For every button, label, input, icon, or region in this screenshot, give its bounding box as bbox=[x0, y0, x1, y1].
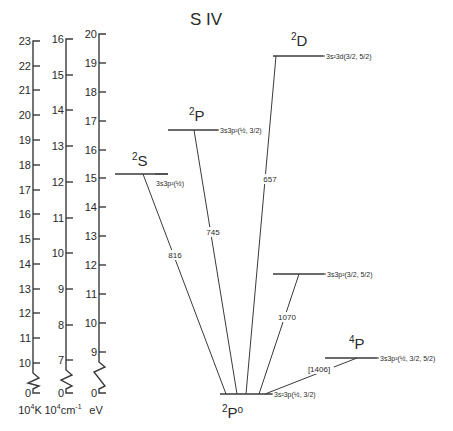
tick-label: 19 bbox=[85, 57, 97, 69]
tick-label: 18 bbox=[19, 159, 31, 171]
axis-electronvolt: 201918171615141312111090eV bbox=[85, 28, 106, 416]
config-label: 3s3p²(3/2, 5/2) bbox=[327, 271, 373, 279]
tick-label: 9 bbox=[58, 283, 64, 295]
tick-label: 20 bbox=[85, 28, 97, 40]
wavelength-label: [1406] bbox=[308, 365, 330, 374]
tick-label: 17 bbox=[85, 115, 97, 127]
transition-2D: 657 bbox=[246, 56, 278, 394]
config-label: 3s²3p(½, 3/2) bbox=[274, 391, 316, 399]
tick-label: 16 bbox=[52, 33, 64, 45]
tick-label: 19 bbox=[19, 134, 31, 146]
tick-label: 14 bbox=[52, 104, 64, 116]
tick-label-zero: 0 bbox=[25, 387, 31, 399]
tick-label-zero: 0 bbox=[91, 387, 97, 399]
axis-kelvin: 23222120191817161514131211100104K bbox=[18, 35, 42, 416]
config-label: 3s3p²(½, 3/2, 5/2) bbox=[380, 355, 435, 363]
wavelength-label: 657 bbox=[263, 175, 277, 184]
level-ground: 3s²3p(½, 3/2)2Po bbox=[220, 391, 316, 421]
tick-label: 12 bbox=[85, 259, 97, 271]
tick-label: 10 bbox=[52, 247, 64, 259]
term-symbol: 2D bbox=[291, 31, 308, 49]
term-symbol: 4P bbox=[349, 334, 365, 352]
wavelength-label: 816 bbox=[168, 251, 182, 260]
tick-label: 17 bbox=[19, 184, 31, 196]
axis-wavenumber: 161514131211109870104cm-1 bbox=[44, 33, 81, 416]
tick-label: 15 bbox=[19, 233, 31, 245]
tick-label: 15 bbox=[52, 69, 64, 81]
tick-label: 12 bbox=[52, 176, 64, 188]
tick-label: 10 bbox=[19, 357, 31, 369]
tick-label: 22 bbox=[19, 60, 31, 72]
tick-label: 7 bbox=[58, 354, 64, 366]
transition-line bbox=[194, 130, 237, 394]
term-symbol: 2S bbox=[132, 151, 148, 169]
tick-label: 20 bbox=[19, 109, 31, 121]
tick-label: 18 bbox=[85, 86, 97, 98]
transition-line bbox=[259, 274, 299, 394]
tick-label: 10 bbox=[85, 317, 97, 329]
tick-label: 8 bbox=[58, 319, 64, 331]
term-symbol: 2Po bbox=[222, 403, 244, 421]
energy-axes: 23222120191817161514131211100104K1615141… bbox=[18, 28, 106, 416]
transition-2S: 816 bbox=[143, 174, 226, 394]
transition-4P: [1406] bbox=[265, 358, 357, 394]
level-2P: 3s3p²(½, 3/2)2P bbox=[168, 106, 262, 135]
tick-label: 13 bbox=[52, 140, 64, 152]
config-label: 3s²3d(3/2, 5/2) bbox=[326, 53, 372, 61]
wavelength-label: 1070 bbox=[278, 313, 296, 322]
tick-label: 11 bbox=[86, 288, 97, 300]
tick-label: 23 bbox=[19, 35, 31, 47]
energy-level-diagram: 23222120191817161514131211100104K1615141… bbox=[0, 0, 453, 431]
axis-unit-label: eV bbox=[89, 404, 103, 416]
config-label: 3s3p²(½, 3/2) bbox=[220, 127, 262, 135]
tick-label: 13 bbox=[19, 283, 31, 295]
tick-label: 11 bbox=[53, 212, 64, 224]
level-2S: 3s3p²(½)2S bbox=[115, 151, 184, 188]
tick-label: 13 bbox=[85, 230, 97, 242]
tick-label: 21 bbox=[19, 84, 31, 96]
transition-line bbox=[265, 358, 357, 394]
transition-2P: 745 bbox=[194, 130, 237, 394]
axis-unit-label: 104cm-1 bbox=[44, 403, 81, 416]
config-label: 3s3p²(½) bbox=[156, 180, 184, 188]
level-2D-low: 3s3p²(3/2, 5/2) bbox=[273, 271, 373, 279]
tick-label: 14 bbox=[85, 201, 97, 213]
wavelength-label: 745 bbox=[206, 228, 220, 237]
tick-label: 16 bbox=[19, 208, 31, 220]
tick-label: 12 bbox=[19, 307, 31, 319]
level-4P: 3s3p²(½, 3/2, 5/2)4P bbox=[325, 334, 435, 363]
tick-label-zero: 0 bbox=[58, 387, 64, 399]
tick-label: 9 bbox=[91, 346, 97, 358]
grotrian-diagram-svg: 23222120191817161514131211100104K1615141… bbox=[0, 0, 453, 431]
transitions: 8167456571070[1406] bbox=[143, 56, 357, 394]
tick-label: 16 bbox=[85, 144, 97, 156]
level-2D: 3s²3d(3/2, 5/2)2D bbox=[273, 31, 372, 61]
transition-2D-low: 1070 bbox=[259, 274, 299, 394]
axis-unit-label: 104K bbox=[18, 403, 42, 416]
tick-label: 11 bbox=[20, 332, 31, 344]
tick-label: 14 bbox=[19, 258, 31, 270]
diagram-title: S IV bbox=[190, 10, 223, 29]
transition-line bbox=[143, 174, 226, 394]
tick-label: 15 bbox=[85, 172, 97, 184]
term-symbol: 2P bbox=[189, 106, 205, 124]
transition-line bbox=[246, 56, 276, 394]
